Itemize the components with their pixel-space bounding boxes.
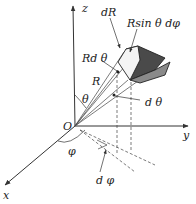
x-axis-label: x: [3, 189, 10, 202]
phi-label: φ: [68, 145, 76, 158]
spherical-volume-element-diagram: z y x O dR Rsin θ dφ Rd θ R θ d θ φ d φ: [0, 0, 196, 204]
z-axis-label: z: [81, 2, 88, 15]
theta-label: θ: [82, 93, 89, 106]
dphi-label: d φ: [96, 174, 115, 187]
R-label: R: [91, 75, 100, 88]
dtheta-label: d θ: [145, 96, 163, 109]
dR-label: dR: [101, 6, 116, 19]
x-axis: [5, 126, 75, 185]
origin-label: O: [63, 120, 72, 133]
z-axis: [73, 6, 75, 126]
dphi-leader: [100, 150, 106, 172]
dphi-bracket: [97, 140, 107, 149]
Rdtheta-label: Rd θ: [81, 52, 108, 65]
dR-leader: [110, 18, 120, 48]
y-axis-label: y: [182, 129, 190, 142]
Rsin-theta-dphi-label: Rsin θ dφ: [126, 17, 180, 30]
volume-element-box: [118, 46, 170, 83]
dtheta-leader: [115, 96, 140, 100]
